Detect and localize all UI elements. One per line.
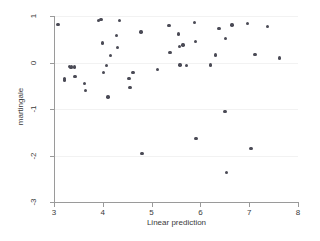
x-axis-tick-label: 8 [288,209,308,217]
data-point [194,137,197,140]
data-point [178,63,181,66]
data-point [109,54,112,57]
y-axis-tick-label: -1 [30,97,38,121]
y-axis-tick-label: -3 [30,190,38,214]
data-point [102,71,105,74]
gridline-horizontal [54,156,298,157]
data-point [214,53,217,56]
x-axis-tick-label: 5 [142,209,162,217]
data-point [209,63,212,66]
y-axis-title: martingale [16,77,25,137]
data-point [99,18,102,21]
data-point [185,64,188,67]
scatter-plot-figure: 10-1-2-3 345678 martingale Linear predic… [0,0,320,241]
data-point [224,37,227,40]
gridline-horizontal [54,16,298,17]
data-point [73,75,76,78]
data-point [266,25,269,28]
graph-region: 10-1-2-3 345678 martingale Linear predic… [6,4,314,232]
x-axis-line [54,202,299,203]
data-point [131,71,134,74]
y-axis-tick [50,63,54,64]
data-point [115,34,118,37]
y-axis-tick-label: -2 [30,144,38,168]
y-axis-tick-label: 0 [30,51,38,75]
data-point [225,171,228,174]
plot-area [54,16,298,202]
data-point [194,40,197,43]
y-axis-tick-label: 1 [30,4,38,28]
x-axis-title: Linear prediction [54,218,299,227]
y-axis-tick [50,109,54,110]
y-axis-line [54,16,55,203]
data-point [156,68,159,71]
x-axis-tick-label: 7 [239,209,259,217]
data-point [127,77,130,80]
data-point [56,23,59,26]
data-point [139,30,142,33]
data-point [101,41,104,44]
x-axis-tick-label: 6 [190,209,210,217]
data-point [278,56,281,59]
data-point [246,22,249,25]
data-point [168,51,171,54]
data-point [83,82,86,85]
x-axis-tick [103,203,104,207]
data-point [217,27,220,30]
data-point [193,21,196,24]
x-axis-tick-label: 3 [44,209,64,217]
data-point [167,24,170,27]
data-point [105,64,108,67]
data-point [106,95,109,98]
x-axis-tick [200,203,201,207]
data-point [128,86,131,89]
data-point [116,46,119,49]
data-point [118,19,121,22]
x-axis-tick [152,203,153,207]
data-point [253,53,256,56]
data-point [223,110,226,113]
data-point [84,89,87,92]
y-axis-tick [50,156,54,157]
data-point [140,152,143,155]
data-point [230,23,233,26]
x-axis-tick-label: 4 [93,209,113,217]
data-point [73,65,76,68]
x-axis-tick [54,203,55,207]
y-axis-tick [50,16,54,17]
data-point [181,43,184,46]
x-axis-tick [298,203,299,207]
data-point [177,32,180,35]
data-point [63,78,66,81]
data-point [249,147,252,150]
x-axis-tick [249,203,250,207]
gridline-horizontal [54,109,298,110]
gridline-horizontal [54,63,298,64]
